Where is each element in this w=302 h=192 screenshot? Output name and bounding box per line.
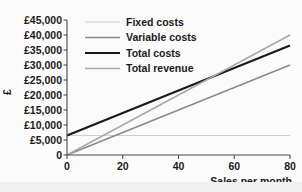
x-tick-label: 80 [284,160,296,172]
y-tick-label: £5,000 [30,134,62,146]
x-tick-label: 0 [64,160,70,172]
series-line-total-costs [67,46,290,136]
legend-label: Total costs [126,47,181,59]
x-tick-marks [67,155,290,159]
y-tick-label: £45,000 [24,14,62,26]
series-line-variable-costs [67,65,290,155]
x-tick-label: 60 [228,160,240,172]
y-tick-label: 0 [56,149,62,161]
legend-label: Variable costs [126,31,197,43]
legend-label: Total revenue [126,62,194,74]
x-tick-label: 20 [117,160,129,172]
x-tick-label: 40 [173,160,185,172]
chart-legend: Fixed costsVariable costsTotal costsTota… [85,16,197,75]
y-tick-label: £15,000 [24,104,62,116]
y-tick-label: £35,000 [24,44,62,56]
break-even-chart: £ 0£5,000£10,000£15,000£20,000£25,000£30… [0,0,302,192]
y-tick-labels: 0£5,000£10,000£15,000£20,000£25,000£30,0… [24,14,62,161]
y-tick-label: £10,000 [24,119,62,131]
legend-label: Fixed costs [126,16,184,28]
chart-figure: £ 0£5,000£10,000£15,000£20,000£25,000£30… [0,0,302,192]
y-tick-label: £20,000 [24,89,62,101]
x-tick-labels: 020406080 [64,160,296,172]
y-tick-label: £40,000 [24,29,62,41]
y-tick-label: £30,000 [24,59,62,71]
footer-band [0,182,302,192]
y-tick-label: £25,000 [24,74,62,86]
y-axis-title: £ [1,89,13,95]
